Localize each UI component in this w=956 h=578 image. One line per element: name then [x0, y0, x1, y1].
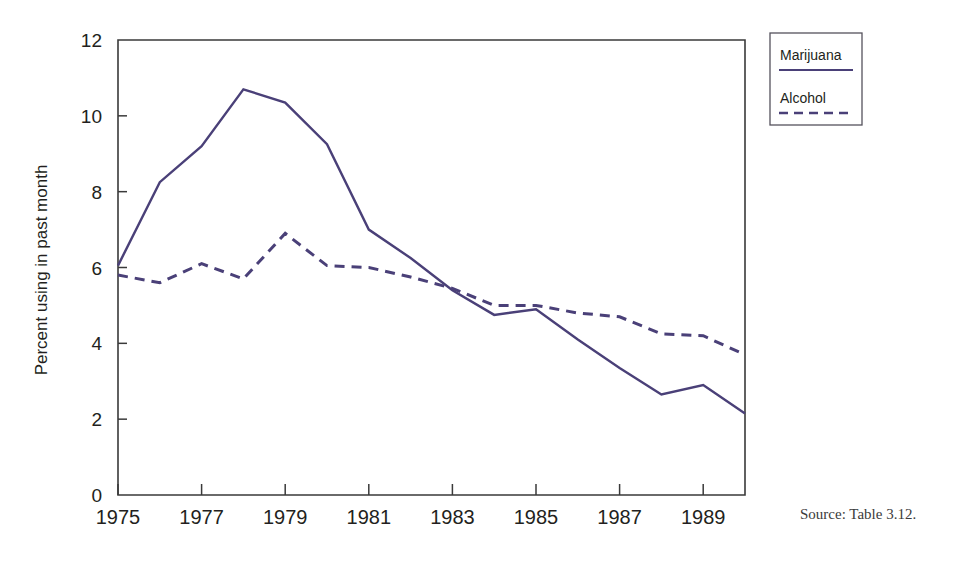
x-tick-label: 1989 [681, 506, 726, 528]
x-tick-label: 1981 [347, 506, 392, 528]
x-tick-label: 1983 [430, 506, 475, 528]
x-tick-label: 1979 [263, 506, 308, 528]
y-tick-label: 2 [91, 409, 102, 430]
y-tick-label: 6 [91, 258, 102, 279]
y-tick-label: 0 [91, 485, 102, 506]
x-tick-label: 1977 [179, 506, 224, 528]
y-tick-label: 10 [81, 106, 102, 127]
x-tick-label: 1985 [514, 506, 559, 528]
y-tick-label: 12 [81, 30, 102, 51]
x-tick-label: 1975 [96, 506, 141, 528]
source-note: Source: Table 3.12. [800, 506, 916, 522]
chart-figure: 024681012 197519771979198119831985198719… [0, 0, 956, 578]
chart-legend: Marijuana Alcohol [770, 33, 862, 125]
legend-label-alcohol: Alcohol [780, 90, 826, 106]
y-tick-label: 4 [91, 333, 102, 354]
y-axis-title: Percent using in past month [32, 165, 51, 376]
legend-label-marijuana: Marijuana [780, 47, 842, 63]
line-chart-svg: 024681012 197519771979198119831985198719… [0, 0, 956, 578]
y-tick-label: 8 [91, 182, 102, 203]
x-tick-label: 1987 [597, 506, 642, 528]
